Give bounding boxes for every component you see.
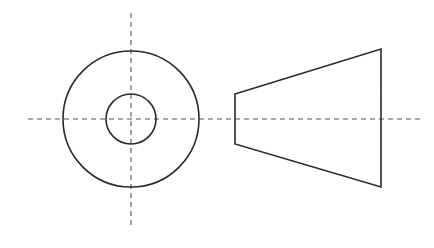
technical-drawing [0,0,434,248]
frustum-side-view [235,49,381,187]
